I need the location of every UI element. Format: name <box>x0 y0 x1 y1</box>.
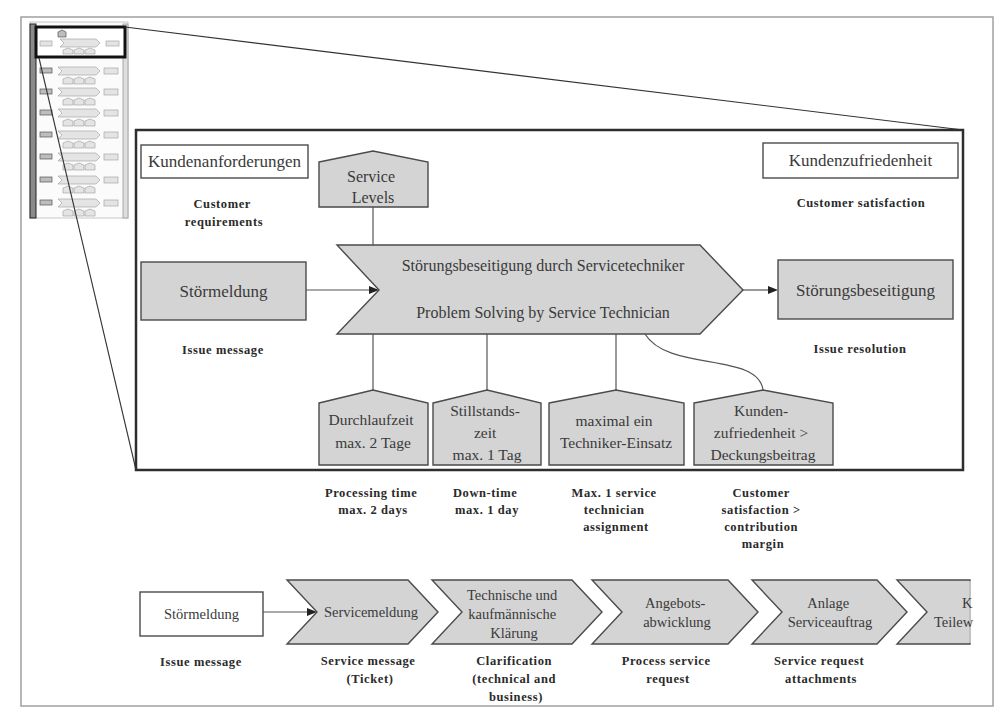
kpi-caption: Processing time max. 2 days <box>325 486 421 517</box>
chain-step-caption: Process service request <box>622 654 715 686</box>
chain-step-caption: Service request attachments <box>774 654 868 686</box>
process-diagram-figure: Kundenanforderungen Customer requirement… <box>0 0 1007 725</box>
input-event-caption: Issue message <box>182 343 264 357</box>
chain-step-chevron <box>752 580 907 644</box>
chain-step-chevron <box>592 580 758 644</box>
chain-step: Anlage Serviceauftrag Service request at… <box>752 580 907 686</box>
chain-step-truncated: K Teilew <box>897 580 976 644</box>
kpi-caption: Customer satisfaction > contribution mar… <box>722 486 805 551</box>
overview-thumbnail <box>30 22 128 218</box>
service-level-item: Durchlaufzeit max. 2 Tage <box>319 390 428 465</box>
chain-step: Angebots- abwicklung Process service req… <box>592 580 758 686</box>
kpi-caption: Max. 1 service technician assignment <box>572 486 661 534</box>
zoom-line-top <box>125 27 963 130</box>
chain-step-label: Servicemeldung <box>324 604 418 620</box>
chain-step: Servicemeldung Service message (Ticket) <box>287 580 438 686</box>
chain-start-event-caption: Issue message <box>160 655 242 669</box>
chain-step-caption: Service message (Ticket) <box>321 654 419 686</box>
chain-start-event-label: Störmeldung <box>164 606 239 622</box>
customer-satisfaction-caption: Customer satisfaction <box>797 196 926 210</box>
process-label-de: Störungsbeseitigung durch Servicetechnik… <box>402 257 685 275</box>
service-level-item: Kunden- zufriedenheit > Deckungsbeitrag <box>694 390 833 465</box>
customer-satisfaction-label: Kundenzufriedenheit <box>789 151 933 170</box>
service-level-item: Stillstands- zeit max. 1 Tag <box>433 390 541 465</box>
chain-step: Technische und kaufmännische Klärung Cla… <box>432 580 602 704</box>
process-label-en: Problem Solving by Service Technician <box>416 304 670 322</box>
input-event-label: Störmeldung <box>180 282 268 301</box>
output-event-label: Störungsbeseitigung <box>796 281 935 300</box>
customer-requirements-label: Kundenanforderungen <box>148 152 301 171</box>
output-event-caption: Issue resolution <box>813 342 906 356</box>
kpi-caption: Down-time max. 1 day <box>453 486 521 517</box>
service-level-item: maximal ein Techniker-Einsatz <box>549 390 684 465</box>
chain-step-caption: Clarification (technical and business) <box>472 654 559 704</box>
